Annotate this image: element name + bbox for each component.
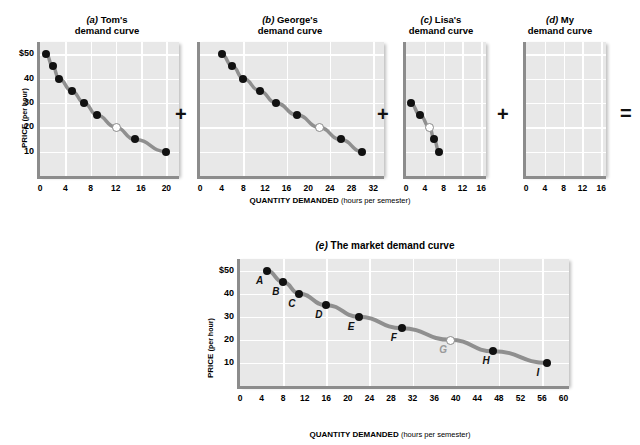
gridline-vertical	[582, 42, 584, 176]
panel-lisa-title-line1: Lisa's	[435, 14, 462, 25]
x-axis-unit-top: (hours per semester)	[341, 196, 411, 205]
x-axis-title-top: QUANTITY DEMANDED	[249, 196, 338, 205]
data-point-label: I	[536, 367, 539, 378]
data-point	[49, 62, 57, 70]
operator-plus-1: +	[175, 104, 187, 124]
panel-lisa-letter: (c)	[421, 14, 433, 25]
plot-background	[526, 42, 606, 176]
operator-plus-2: +	[377, 104, 389, 124]
panel-george-letter: (b)	[262, 14, 274, 25]
gridline-horizontal	[526, 103, 606, 105]
data-point	[407, 99, 415, 107]
data-point	[55, 75, 63, 83]
gridline-vertical	[545, 42, 547, 176]
data-point-label: A	[256, 275, 263, 286]
data-point-label: F	[391, 332, 397, 343]
gridline-horizontal	[526, 54, 606, 56]
plot-my: 0481216	[516, 38, 612, 198]
y-axis-unit-top: (per hour)	[21, 88, 28, 121]
data-point-open	[112, 123, 121, 132]
data-point-label: C	[288, 298, 295, 309]
data-point	[93, 111, 101, 119]
x-axis-label-top: QUANTITY DEMANDED (hours per semester)	[205, 196, 455, 205]
y-axis-title-top: PRICE	[20, 124, 29, 148]
panel-my-title-line1: My	[561, 14, 574, 25]
panel-tom-title-line2: demand curve	[75, 25, 139, 36]
x-tick-label: 16	[589, 183, 613, 193]
data-point	[256, 87, 264, 95]
x-axis-unit-market: (hours per semester)	[401, 430, 471, 439]
gridline-horizontal	[526, 79, 606, 81]
y-axis-title-market: PRICE	[206, 354, 215, 378]
data-point	[162, 148, 170, 156]
panel-george-title: (b) George'sdemand curve	[200, 14, 380, 36]
y-axis-label-market: PRICE (per hour)	[206, 318, 215, 378]
panel-market-letter: (e)	[316, 240, 328, 251]
data-point-label: E	[348, 321, 355, 332]
panel-my-letter: (d)	[546, 14, 558, 25]
data-point	[272, 99, 280, 107]
y-axis-label-top: PRICE (per hour)	[20, 88, 29, 148]
panel-my-title: (d) Mydemand curve	[504, 14, 616, 36]
data-point	[239, 75, 247, 83]
operator-equals: =	[620, 103, 632, 123]
data-point-label: H	[482, 355, 489, 366]
plot-lisa: 0481216	[396, 38, 492, 198]
data-point	[263, 267, 271, 275]
gridline-horizontal	[526, 152, 606, 154]
panel-tom-title: (a) Tom'sdemand curve	[32, 14, 182, 36]
data-point	[358, 148, 366, 156]
data-point-open	[446, 336, 455, 345]
gridline-vertical	[601, 42, 603, 176]
operator-plus-3: +	[497, 104, 509, 124]
x-axis-label-market: QUANTITY DEMANDED (hours per semester)	[225, 430, 555, 439]
panel-tom-title-line1: Tom's	[101, 14, 128, 25]
data-point	[68, 87, 76, 95]
demand-curve-line	[190, 38, 390, 198]
data-point	[218, 50, 226, 58]
data-point-open	[315, 123, 324, 132]
x-axis-line	[523, 176, 606, 179]
demand-curve-line	[396, 38, 492, 198]
data-point	[295, 290, 303, 298]
panel-lisa-title-line2: demand curve	[409, 25, 473, 36]
panel-george-title-line2: demand curve	[258, 25, 322, 36]
plot-george: 048121620242832	[190, 38, 390, 198]
panel-market-title: (e) The market demand curve	[240, 240, 530, 251]
data-point-label: G	[439, 344, 447, 355]
panel-lisa-title: (c) Lisa'sdemand curve	[386, 14, 496, 36]
panel-tom-letter: (a)	[86, 14, 98, 25]
gridline-vertical	[564, 42, 566, 176]
panel-market-title-text: The market demand curve	[328, 240, 455, 251]
y-axis-unit-market: (per hour)	[207, 318, 214, 351]
y-axis-line	[523, 42, 526, 179]
data-point	[355, 313, 363, 321]
panel-my-title-line2: demand curve	[528, 25, 592, 36]
x-axis-title-market: QUANTITY DEMANDED	[309, 430, 398, 439]
data-point	[435, 148, 443, 156]
data-point-label: B	[272, 286, 279, 297]
gridline-horizontal	[526, 127, 606, 129]
panel-george-title-line1: George's	[277, 14, 318, 25]
data-point-label: D	[315, 309, 322, 320]
plot-market: $504030201004812162024283236404448525660…	[200, 255, 575, 410]
